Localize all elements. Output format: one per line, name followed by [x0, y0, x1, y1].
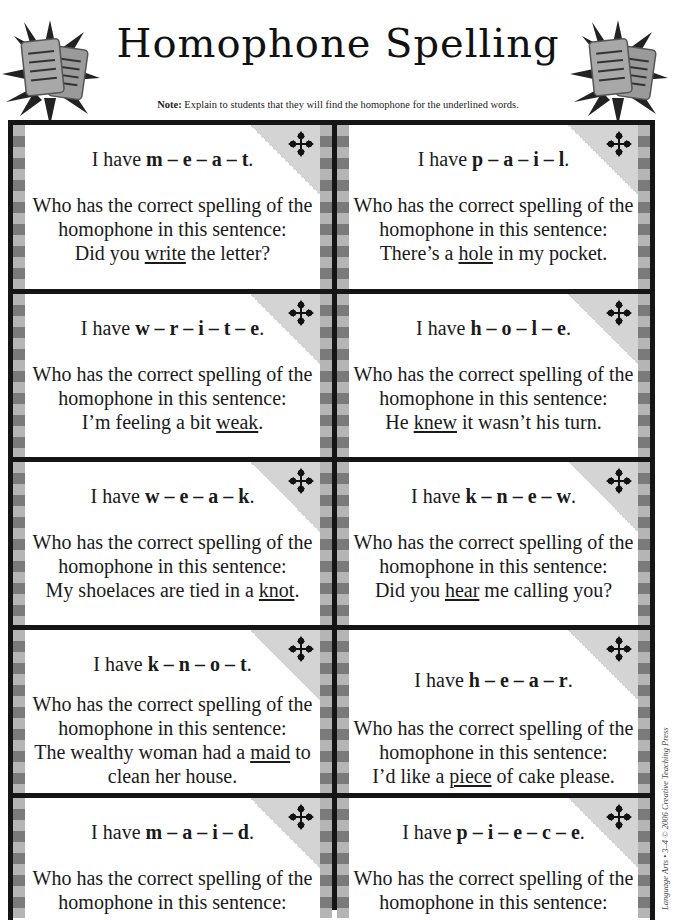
question-block: Who has the correct spelling of thehomop…: [25, 866, 320, 914]
bingo-card: I have h – o – l – e.Who has the correct…: [337, 294, 650, 460]
sentence-start: The wealthy woman had a: [34, 741, 250, 763]
question-line-1: Who has the correct spelling of the: [25, 530, 320, 554]
sentence-start: Did you: [375, 579, 445, 601]
sentence-start: My shoelaces are tied in a: [46, 579, 259, 601]
note-label: Note:: [157, 99, 182, 110]
have-line: I have w – r – i – t – e.: [25, 316, 320, 340]
striped-border-right: [320, 630, 332, 796]
question-block: Who has the correct spelling of thehomop…: [349, 530, 638, 602]
have-period: .: [249, 485, 254, 507]
have-prefix: I have: [411, 485, 465, 507]
striped-border-left: [337, 294, 349, 460]
underlined-homophone: write: [145, 242, 186, 264]
column-divider: [332, 120, 337, 910]
have-line: I have m – e – a – t.: [25, 147, 320, 171]
have-line: I have h – e – a – r.: [349, 668, 638, 692]
question-line-1: Who has the correct spelling of the: [25, 866, 320, 890]
sentence-end: .: [294, 579, 299, 601]
have-prefix: I have: [92, 148, 146, 170]
sentence-start: There’s a: [380, 242, 459, 264]
question-block: Who has the correct spelling of thehomop…: [25, 692, 320, 788]
have-period: .: [568, 669, 573, 691]
striped-border-right: [320, 798, 332, 918]
question-block: Who has the correct spelling of thehomop…: [25, 193, 320, 265]
question-line-2: homophone in this sentence:: [349, 217, 638, 241]
sentence-start: Did you: [75, 242, 145, 264]
striped-border-left: [337, 630, 349, 796]
bingo-card: I have k – n – e – w.Who has the correct…: [337, 462, 650, 628]
spelled-word: h – e – a – r: [469, 669, 568, 691]
question-line-2: homophone in this sentence:: [25, 217, 320, 241]
have-line: I have k – n – e – w.: [349, 484, 638, 508]
sentence-end: of cake please.: [492, 765, 615, 787]
bingo-card: I have p – a – i – l.Who has the correct…: [337, 125, 650, 290]
sentence-end: it wasn’t his turn.: [457, 411, 602, 433]
striped-border-right: [320, 462, 332, 628]
striped-border-right: [638, 798, 650, 918]
have-line: I have k – n – o – t.: [25, 652, 320, 676]
question-line-1: Who has the correct spelling of the: [349, 530, 638, 554]
question-line-2: homophone in this sentence:: [349, 554, 638, 578]
question-line-2: homophone in this sentence:: [25, 716, 320, 740]
have-period: .: [249, 821, 254, 843]
question-line-2: homophone in this sentence:: [349, 740, 638, 764]
question-line-1: Who has the correct spelling of the: [25, 193, 320, 217]
spelled-word: k – n – o – t: [148, 653, 247, 675]
striped-border-right: [638, 630, 650, 796]
striped-border-right: [320, 125, 332, 290]
striped-border-left: [337, 125, 349, 290]
have-period: .: [248, 148, 253, 170]
have-line: I have h – o – l – e.: [349, 316, 638, 340]
bingo-card: I have h – e – a – r.Who has the correct…: [337, 630, 650, 796]
example-sentence: He knew it wasn’t his turn.: [349, 410, 638, 434]
spelled-word: h – o – l – e: [470, 317, 566, 339]
question-block: Who has the correct spelling of thehomop…: [349, 362, 638, 434]
striped-border-right: [638, 125, 650, 290]
example-sentence: Did you write the letter?: [25, 241, 320, 265]
spelled-word: p – a – i – l: [472, 148, 564, 170]
have-prefix: I have: [91, 485, 145, 507]
spelled-word: k – n – e – w: [465, 485, 571, 507]
question-block: Who has the correct spelling of thehomop…: [349, 716, 638, 788]
copyright-text: Language Arts • 3–4 © 2006 Creative Teac…: [660, 670, 670, 910]
striped-border-left: [13, 630, 25, 796]
sentence-start: I’d like a: [372, 765, 449, 787]
have-prefix: I have: [418, 148, 472, 170]
example-sentence: There’s a hole in my pocket.: [349, 241, 638, 265]
have-period: .: [259, 317, 264, 339]
striped-border-left: [337, 798, 349, 918]
striped-border-left: [13, 798, 25, 918]
question-block: Who has the correct spelling of thehomop…: [349, 866, 638, 914]
striped-border-right: [320, 294, 332, 460]
example-sentence: The wealthy woman had a maid to: [25, 740, 320, 764]
have-period: .: [580, 821, 585, 843]
underlined-homophone: weak: [216, 411, 258, 433]
question-line-1: Who has the correct spelling of the: [25, 362, 320, 386]
have-line: I have w – e – a – k.: [25, 484, 320, 508]
bingo-card: I have w – r – i – t – e.Who has the cor…: [13, 294, 332, 460]
bingo-card: I have k – n – o – t.Who has the correct…: [13, 630, 332, 796]
example-sentence: I’d like a piece of cake please.: [349, 764, 638, 788]
have-line: I have p – a – i – l.: [349, 147, 638, 171]
bingo-card: I have w – e – a – k.Who has the correct…: [13, 462, 332, 628]
question-line-2: homophone in this sentence:: [25, 386, 320, 410]
papers-starburst-icon: [568, 18, 676, 126]
underlined-homophone: maid: [250, 741, 290, 763]
have-period: .: [564, 148, 569, 170]
note-text: Explain to students that they will find …: [182, 99, 519, 110]
have-prefix: I have: [91, 821, 145, 843]
have-period: .: [571, 485, 576, 507]
spelled-word: w – r – i – t – e: [135, 317, 259, 339]
sentence-end: me calling you?: [479, 579, 612, 601]
sentence-end: .: [258, 411, 263, 433]
underlined-homophone: hole: [458, 242, 492, 264]
example-sentence: I’m feeling a bit weak.: [25, 410, 320, 434]
example-sentence: Did you hear me calling you?: [349, 578, 638, 602]
have-prefix: I have: [416, 317, 470, 339]
have-line: I have m – a – i – d.: [25, 820, 320, 844]
sentence-end: the letter?: [186, 242, 270, 264]
striped-border-left: [13, 125, 25, 290]
underlined-homophone: piece: [449, 765, 491, 787]
example-sentence: My shoelaces are tied in a knot.: [25, 578, 320, 602]
sentence-start: I’m feeling a bit: [82, 411, 216, 433]
